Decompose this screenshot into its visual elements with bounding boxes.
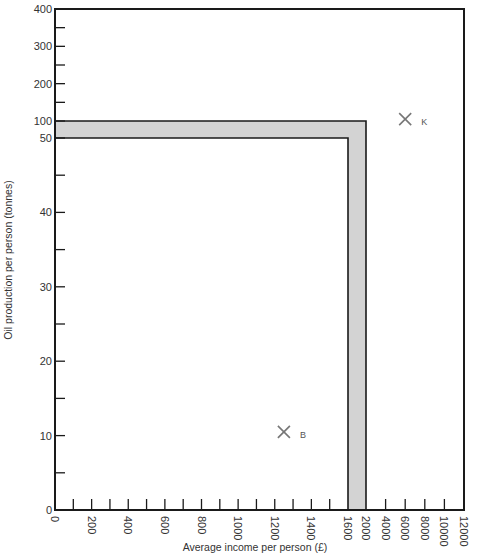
x-tick-label: 10000 (438, 516, 450, 547)
y-tick-label: 0 (46, 504, 52, 516)
x-tick-label: 1600 (342, 516, 354, 540)
x-tick-label: 1200 (269, 516, 281, 540)
point-b: B (278, 426, 306, 440)
y-tick-label: 30 (40, 281, 52, 293)
y-axis: 01020304050100200300400 (34, 3, 65, 516)
y-tick-label: 50 (40, 132, 52, 144)
x-axis: 0200400600800100012001400160020004000600… (49, 499, 470, 547)
x-tick-label: 8000 (419, 516, 431, 540)
x-tick-label: 12000 (458, 516, 470, 547)
x-tick-label: 0 (49, 516, 61, 522)
chart: 01020304050100200300400 0200400600800100… (0, 0, 484, 558)
y-tick-label: 20 (40, 355, 52, 367)
plot-frame (55, 9, 464, 510)
point-label: K (421, 117, 427, 127)
y-axis-title: Oil production per person (tonnes) (2, 180, 14, 339)
x-tick-label: 1400 (305, 516, 317, 540)
x-axis-title: Average income per person (£) (183, 541, 328, 553)
y-tick-label: 400 (34, 3, 52, 15)
y-tick-label: 40 (40, 206, 52, 218)
x-tick-label: 1000 (232, 516, 244, 540)
point-label: B (300, 430, 306, 440)
x-tick-label: 600 (159, 516, 171, 534)
y-tick-label: 300 (34, 40, 52, 52)
x-tick-label: 200 (86, 516, 98, 534)
y-tick-label: 100 (34, 115, 52, 127)
x-tick-label: 400 (122, 516, 134, 534)
y-tick-label: 200 (34, 78, 52, 90)
threshold-band (55, 121, 366, 510)
point-k: K (399, 113, 427, 127)
y-tick-label: 10 (40, 430, 52, 442)
x-tick-label: 6000 (399, 516, 411, 540)
x-tick-label: 2000 (360, 516, 372, 540)
x-tick-label: 800 (196, 516, 208, 534)
x-tick-label: 4000 (380, 516, 392, 540)
